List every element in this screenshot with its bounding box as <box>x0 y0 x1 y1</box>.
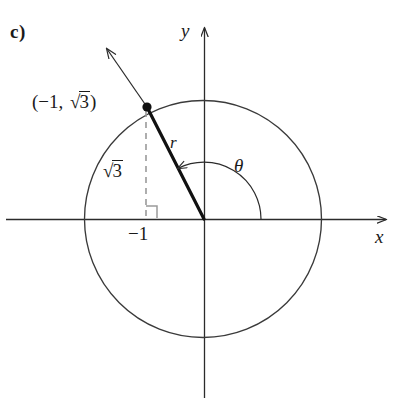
figure-canvas <box>0 0 395 408</box>
point-coordinates-label: (−1, √3) <box>32 91 96 111</box>
point-label-suffix: ) <box>90 91 96 112</box>
radius-label: r <box>170 134 177 151</box>
leg-radical: √3 <box>101 160 123 180</box>
part-label: c) <box>10 22 26 41</box>
angle-label: θ <box>234 156 243 175</box>
x-axis-label: x <box>375 227 383 246</box>
leg-radicand: 3 <box>112 160 123 180</box>
horizontal-leg-label: −1 <box>128 224 148 243</box>
vertical-leg-label: √3 <box>101 160 123 180</box>
trigonometry-unit-circle-figure: c) y x r θ (−1, √3) √3 −1 <box>0 0 395 408</box>
y-axis-label: y <box>181 21 189 40</box>
point-label-prefix: (−1, <box>32 91 68 112</box>
terminal-ray-extension <box>107 49 147 107</box>
right-angle-marker <box>146 206 157 218</box>
point-radicand: 3 <box>79 91 90 111</box>
point-radical: √3 <box>68 91 90 111</box>
terminal-point-dot <box>142 102 151 111</box>
